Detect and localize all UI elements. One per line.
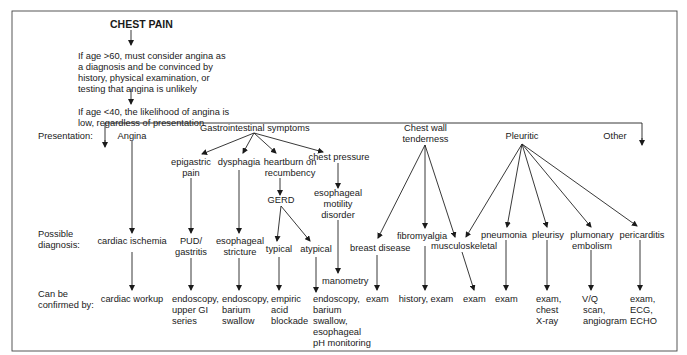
label-line: confirmed by: — [38, 300, 94, 311]
diagnosis-esophageal-stricture: esophageal stricture — [215, 236, 265, 258]
symptom-chest-pressure: chest pressure — [306, 152, 372, 163]
label-line: endoscopy, — [313, 294, 371, 305]
label-line: esophageal — [310, 188, 366, 199]
arrow-pleuritic-pleurisy — [522, 144, 547, 227]
esophageal-motility-disorder: esophageal motility disorder — [310, 188, 366, 221]
label-line: pain — [170, 168, 212, 179]
diagnosis-cardiac-ischemia: cardiac ischemia — [96, 236, 168, 247]
label-line: diagnosis: — [38, 240, 80, 251]
arrow-gerd-atypical — [281, 206, 310, 241]
diagnosis-musculoskeletal: musculoskeletal — [430, 241, 498, 252]
note-line: If age <40, the likelihood of angina is — [78, 107, 229, 118]
arrow-chestwall-breast — [378, 145, 425, 238]
diagnosis-pneumonia: pneumonia — [480, 230, 528, 241]
label-line: exam, — [536, 294, 561, 305]
diagnosis-pericarditis: pericarditis — [618, 230, 666, 241]
label-line: exam, — [630, 294, 657, 305]
label-line: V/Q — [582, 294, 627, 305]
label-line: barium — [222, 305, 269, 316]
label-line: upper GI — [172, 305, 219, 316]
row-label-possible-diagnosis: Possible diagnosis: — [38, 229, 80, 251]
confirm-atypical: endoscopy, barium swallow, esophageal pH… — [313, 294, 371, 349]
label-line: Possible — [38, 229, 80, 240]
note-line: If age >60, must consider angina as — [78, 51, 226, 62]
confirm-musculoskeletal: exam — [463, 294, 485, 305]
confirm-embolism: V/Q scan, angiogram — [582, 294, 627, 327]
label-line: angiogram — [582, 316, 627, 327]
label-line: epigastric — [170, 157, 212, 168]
presentation-angina: Angina — [115, 131, 149, 142]
title: CHEST PAIN — [110, 19, 173, 30]
label-line: blockade — [271, 316, 308, 327]
symptom-dysphagia: dysphagia — [217, 157, 261, 168]
diagnosis-pleurisy: pleurisy — [530, 230, 566, 241]
diagnosis-pulmonary-embolism: plumonary embolism — [568, 230, 616, 252]
label-line: gastritis — [174, 247, 208, 258]
age-over-60-note: If age >60, must consider angina as a di… — [78, 51, 226, 95]
label-line: stricture — [215, 247, 265, 258]
label-line: scan, — [582, 305, 627, 316]
label-line: Chest wall — [398, 123, 453, 134]
note-line: testing that angina is unlikely — [78, 84, 226, 95]
label-line: swallow, — [313, 316, 371, 327]
label-line: embolism — [568, 241, 616, 252]
confirm-breast: exam — [366, 294, 388, 305]
confirm-pud: endoscopy, upper GI series — [172, 294, 219, 327]
confirm-typical: empiric acid blockade — [271, 294, 308, 327]
label-line: esophageal — [215, 236, 265, 247]
label-line: X-ray — [536, 316, 561, 327]
arrow-chestwall-musculoskeletal — [425, 145, 455, 237]
diagnosis-pud-gastritis: PUD/ gastritis — [174, 236, 208, 258]
label-line: PUD/ — [174, 236, 208, 247]
row-label-presentation: Presentation: — [38, 131, 93, 142]
confirm-fibromyalgia: history, exam — [398, 294, 454, 305]
label-line: tenderness — [398, 134, 453, 145]
confirm-pneumonia: exam — [495, 294, 517, 305]
label-line: empiric — [271, 294, 308, 305]
note-line: history, physical examination, or — [78, 73, 226, 84]
presentation-other: Other — [600, 131, 630, 142]
note-line: a diagnosis and be convinced by — [78, 62, 226, 73]
label-line: pH monitoring — [313, 338, 371, 349]
label-line: acid — [271, 305, 308, 316]
label-line: chest — [536, 305, 561, 316]
confirm-pericarditis: exam, ECG, ECHO — [630, 294, 657, 327]
arrow-gi-dysphagia — [243, 133, 254, 153]
label-line: ECG, — [630, 305, 657, 316]
presentation-pleuritic: Pleuritic — [500, 131, 544, 142]
label-line: endoscopy, — [172, 294, 219, 305]
label-line: disorder — [310, 210, 366, 221]
presentation-gi: Gastrointestinal symptoms — [200, 123, 308, 134]
arrow-musculoskeletal-confirm — [462, 252, 474, 290]
diagnosis-typical: typical — [262, 244, 296, 255]
label-line: barium — [313, 305, 371, 316]
presentation-chest-wall: Chest wall tenderness — [398, 123, 453, 145]
diagnosis-atypical: atypical — [298, 244, 334, 255]
confirm-cardiac-workup: cardiac workup — [96, 294, 168, 305]
arrow-gerd-typical — [277, 206, 281, 241]
arrow-gi-epigastric — [202, 133, 254, 154]
row-label-confirmed-by: Can be confirmed by: — [38, 289, 94, 311]
label-line: swallow — [222, 316, 269, 327]
confirm-stricture: endoscopy, barium swallow — [222, 294, 269, 327]
diagnosis-manometry: manometry — [322, 276, 368, 287]
label-line: esophageal — [313, 327, 371, 338]
label-line: Can be — [38, 289, 94, 300]
label-line: ECHO — [630, 316, 657, 327]
label-line: recumbency — [262, 168, 318, 179]
label-line: plumonary — [568, 230, 616, 241]
gerd: GERD — [267, 195, 295, 206]
label-line: motility — [310, 199, 366, 210]
symptom-epigastric-pain: epigastric pain — [170, 157, 212, 179]
label-line: series — [172, 316, 219, 327]
diagnosis-breast-disease: breast disease — [350, 243, 406, 254]
label-line: endoscopy, — [222, 294, 269, 305]
confirm-pleurisy: exam, chest X-ray — [536, 294, 561, 327]
